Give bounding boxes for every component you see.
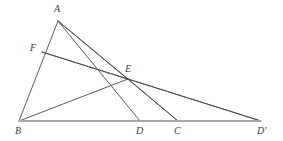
vertex-label-f: F xyxy=(30,43,36,53)
segment-E-Dp xyxy=(128,79,261,121)
vertex-label-e: E xyxy=(125,64,131,74)
vertex-label-dp: D′ xyxy=(257,126,266,136)
segment-E-C xyxy=(128,79,178,121)
vertex-label-b: B xyxy=(15,126,21,136)
segment-B-E xyxy=(19,79,128,121)
geometry-figure: AFEBDCD′ xyxy=(0,0,283,141)
vertex-label-a: A xyxy=(54,4,60,14)
segment-A-B xyxy=(19,21,58,121)
segment-layer xyxy=(19,21,261,121)
vertex-label-c: C xyxy=(174,126,181,136)
geometry-canvas xyxy=(0,0,283,141)
vertex-label-d: D xyxy=(136,126,143,136)
